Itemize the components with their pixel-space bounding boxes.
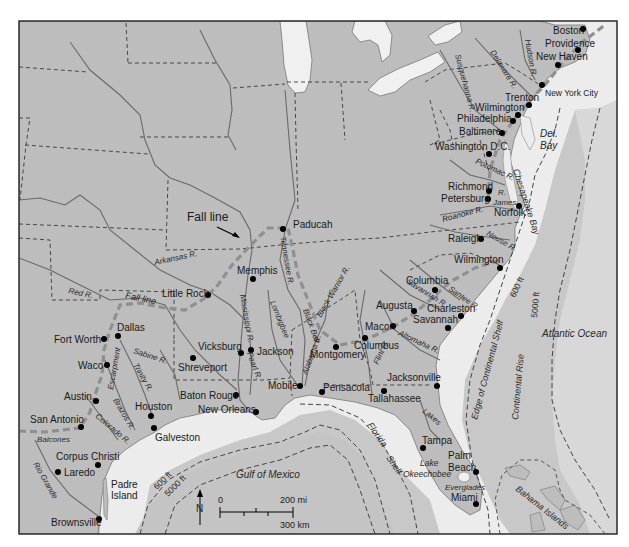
scale-miles: 200 mi	[280, 495, 307, 505]
city-label: Little Rock	[162, 288, 210, 299]
city-label: Pensacola	[323, 382, 370, 393]
city-label: Jackson	[257, 346, 294, 357]
city-label: Paducah	[293, 219, 332, 230]
lake-okeechobee	[458, 472, 470, 482]
city-dot	[190, 355, 196, 361]
city-dot	[115, 333, 121, 339]
city-label: Houston	[135, 401, 172, 412]
river-label: R.	[498, 188, 506, 197]
scale-zero: 0	[218, 495, 223, 505]
balcones-label: Balcones	[37, 435, 70, 444]
city-label: Vicksburg	[198, 341, 242, 352]
city-dot	[250, 276, 256, 282]
city-label: Tampa	[422, 435, 452, 446]
city-label: Corpus Christi	[56, 451, 119, 462]
city-label: Macon	[365, 321, 395, 332]
city-label: Palm	[448, 450, 471, 461]
lake-okeechobee-label-2: Okeechobee	[403, 469, 451, 479]
city-label: Providence	[545, 38, 595, 49]
gulf-of-mexico-label: Gulf of Mexico	[236, 469, 300, 480]
city-dot	[297, 383, 303, 389]
city-dot	[434, 383, 440, 389]
scale-km: 300 km	[280, 520, 310, 530]
city-label: Waco	[78, 360, 104, 371]
atlantic-ocean-label: Atlantic Ocean	[541, 328, 607, 339]
city-label: Richmond	[448, 181, 493, 192]
city-label: Beach	[448, 462, 476, 473]
city-label: Austin	[64, 391, 92, 402]
city-label: Petersburg	[441, 193, 490, 204]
city-label: Savannah	[413, 314, 458, 325]
city-label: Tallahassee	[368, 393, 421, 404]
city-label: Memphis	[237, 265, 278, 276]
eastern-us-physiography-map: BostonProvidenceNew HavenNew York CityTr…	[0, 0, 629, 547]
city-label: Shreveport	[178, 362, 227, 373]
padre-island-label-1: Padre	[111, 479, 138, 490]
city-label: Galveston	[155, 432, 200, 443]
city-label: Boston	[553, 25, 584, 36]
city-label: Philadelphia	[457, 113, 512, 124]
city-label: Augusta	[376, 300, 413, 311]
everglades-label: Everglades	[445, 483, 485, 492]
city-label: Fort Worth	[54, 334, 101, 345]
city-label: Baton Rouge	[180, 390, 239, 401]
city-dot	[93, 398, 99, 404]
city-label: Jacksonville	[387, 372, 441, 383]
city-dot	[55, 469, 61, 475]
city-label: Washington D.C.	[435, 141, 510, 152]
city-label: Raleigh	[448, 233, 482, 244]
city-label: Laredo	[64, 467, 96, 478]
north-label: N	[196, 503, 203, 514]
city-dot	[148, 413, 154, 419]
del-bay-label-2: Bay	[540, 140, 558, 151]
city-dot	[101, 336, 107, 342]
city-dot	[280, 226, 286, 232]
city-label: Wilmington	[475, 102, 524, 113]
del-bay-label-1: Del.	[540, 128, 558, 139]
fall-line-label-top: Fall line	[187, 210, 229, 224]
city-label: Dallas	[117, 322, 145, 333]
city-label: Montgomery	[310, 349, 366, 360]
city-label: Miami	[451, 492, 478, 503]
city-label: Wilmington	[454, 254, 503, 265]
city-label: New Haven	[536, 51, 588, 62]
city-dot	[445, 325, 451, 331]
padre-island-label-2: Island	[111, 490, 138, 501]
city-label: Brownsville	[51, 517, 102, 528]
city-dot	[95, 462, 101, 468]
city-label: New Orleans	[198, 404, 256, 415]
city-dot	[151, 425, 157, 431]
lake-okeechobee-label-1: Lake	[420, 458, 439, 468]
city-label: Mobile	[268, 380, 298, 391]
city-label: San Antonio	[30, 414, 84, 425]
city-label: Norfolk	[494, 207, 527, 218]
city-label: Baltimore	[459, 126, 502, 137]
city-dot	[555, 62, 561, 68]
city-label: New York City	[545, 88, 599, 98]
city-dot	[497, 265, 503, 271]
river-label: James	[492, 198, 517, 207]
